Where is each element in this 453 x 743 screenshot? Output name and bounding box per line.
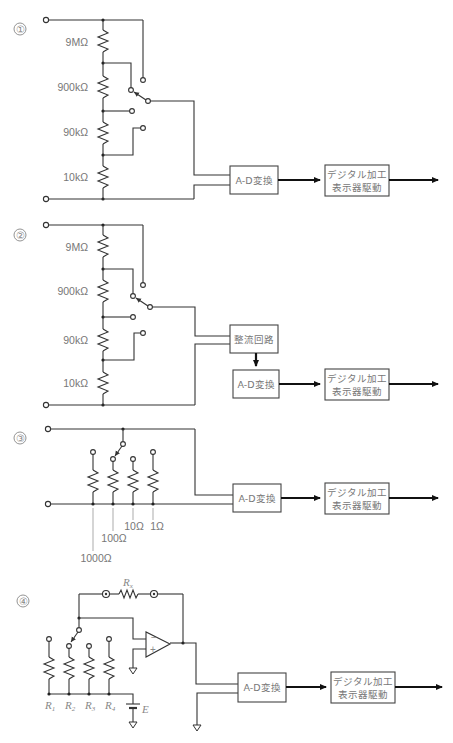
circuit-3-current: ③ 1000Ω 10: [14, 426, 438, 564]
svg-text:R1: R1: [44, 699, 55, 713]
circuit-1-dc-voltage: ① 9MΩ 900kΩ 90kΩ 10kΩ: [14, 17, 438, 201]
svg-text:②: ②: [16, 230, 25, 241]
input-terminal-hi: [43, 17, 48, 22]
svg-text:整流回路: 整流回路: [234, 334, 274, 345]
multimeter-circuit-diagram: ① 9MΩ 900kΩ 90kΩ 10kΩ: [0, 0, 453, 743]
resistor-900k: [98, 76, 108, 98]
svg-text:デジタル加工: デジタル加工: [327, 373, 387, 384]
svg-text:90kΩ: 90kΩ: [63, 334, 88, 346]
ground-icon: [129, 722, 137, 728]
svg-text:A-D変換: A-D変換: [237, 379, 274, 390]
svg-text:R4: R4: [104, 699, 116, 713]
svg-text:1000Ω: 1000Ω: [80, 552, 111, 564]
svg-text:デジタル加工: デジタル加工: [333, 676, 393, 687]
svg-text:③: ③: [16, 433, 25, 444]
ground-icon: [129, 668, 137, 674]
circuit-number: ①: [16, 24, 25, 35]
svg-text:100Ω: 100Ω: [101, 532, 127, 544]
circuit-4-resistance: ④ Rx − +: [17, 576, 442, 731]
resistor-90k: [98, 122, 108, 144]
ground-icon: [193, 725, 201, 731]
input-terminal-com: [43, 196, 48, 201]
svg-text:900kΩ: 900kΩ: [57, 81, 88, 93]
svg-text:−: −: [151, 632, 157, 643]
svg-text:E: E: [141, 703, 149, 715]
svg-text:10Ω: 10Ω: [124, 520, 144, 532]
svg-text:9MΩ: 9MΩ: [66, 241, 89, 253]
svg-text:A-D変換: A-D変換: [243, 682, 280, 693]
svg-text:10kΩ: 10kΩ: [63, 171, 88, 183]
svg-text:A-D変換: A-D変換: [238, 493, 275, 504]
resistor-10k: [98, 166, 108, 188]
svg-text:表示器駆動: 表示器駆動: [338, 689, 388, 700]
svg-text:R2: R2: [64, 699, 76, 713]
svg-text:④: ④: [19, 596, 28, 607]
svg-text:R3: R3: [84, 699, 96, 713]
range-switch-wiper: [134, 92, 146, 100]
svg-text:表示器駆動: 表示器駆動: [332, 182, 382, 193]
svg-text:表示器駆動: 表示器駆動: [332, 386, 382, 397]
svg-text:1Ω: 1Ω: [150, 520, 164, 532]
svg-text:デジタル加工: デジタル加工: [327, 169, 387, 180]
svg-text:90kΩ: 90kΩ: [63, 126, 88, 138]
svg-text:A-D変換: A-D変換: [235, 175, 272, 186]
svg-text:Rx: Rx: [122, 576, 134, 590]
svg-text:900kΩ: 900kΩ: [57, 285, 88, 297]
resistor-rx: [119, 590, 138, 598]
svg-text:+: +: [150, 644, 156, 655]
svg-text:9MΩ: 9MΩ: [66, 36, 89, 48]
resistor-9M: [98, 30, 108, 52]
svg-text:デジタル加工: デジタル加工: [327, 487, 387, 498]
circuit-2-ac-voltage: ② 9MΩ 900kΩ 90kΩ 10kΩ: [14, 222, 438, 407]
svg-text:10kΩ: 10kΩ: [63, 377, 88, 389]
svg-text:表示器駆動: 表示器駆動: [332, 500, 382, 511]
